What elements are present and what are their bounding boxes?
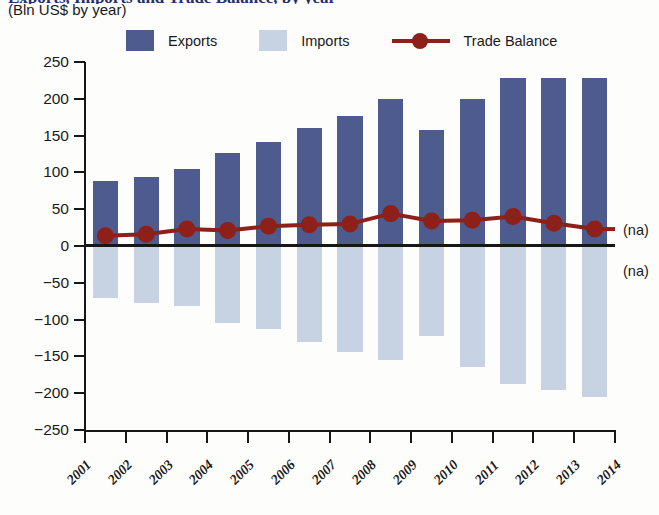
legend-line-marker-icon <box>392 30 450 51</box>
y-tick-250 <box>74 61 85 63</box>
x-tick-label-2007: 2007 <box>308 457 339 488</box>
trade-balance-marker-2005 <box>260 218 277 235</box>
trade-balance-marker-2002 <box>138 226 155 243</box>
x-tick-label-2008: 2008 <box>349 457 380 488</box>
legend-item-exports[interactable]: Exports <box>126 30 217 51</box>
x-tick-label-2011: 2011 <box>471 458 502 489</box>
y-tick-label-0: 0 <box>60 237 69 255</box>
y-tick-label-250: 250 <box>43 53 69 71</box>
trade-balance-marker-2011 <box>505 208 522 225</box>
y-tick--200 <box>74 392 85 394</box>
y-tick--50 <box>74 282 85 284</box>
x-tick-2008 <box>369 430 371 443</box>
trade-chart: Exports, Imports and Trade Balance, by y… <box>0 0 659 515</box>
x-tick-2009 <box>410 430 412 443</box>
na-label-above-axis: (na) <box>623 222 649 238</box>
trade-balance-marker-2013 <box>586 221 603 238</box>
na-label-below-axis: (na) <box>623 263 649 279</box>
x-axis <box>84 430 615 432</box>
chart-legend: Exports Imports Trade Balance <box>126 30 557 51</box>
trade-balance-marker-2001 <box>97 227 114 244</box>
x-tick-label-2004: 2004 <box>186 457 217 488</box>
x-tick-2002 <box>125 430 127 443</box>
y-tick-label--200: −200 <box>34 384 69 402</box>
trade-balance-marker-2003 <box>178 221 195 238</box>
x-tick-label-2012: 2012 <box>512 457 543 488</box>
trade-balance-marker-2008 <box>382 205 399 222</box>
x-tick-2004 <box>206 430 208 443</box>
y-tick--150 <box>74 355 85 357</box>
x-tick-2013 <box>573 430 575 443</box>
y-tick--100 <box>74 319 85 321</box>
legend-swatch-imports <box>259 30 287 51</box>
legend-label-trade-balance: Trade Balance <box>464 33 558 49</box>
y-tick-label-50: 50 <box>52 200 69 218</box>
x-tick-label-2006: 2006 <box>268 457 299 488</box>
legend-swatch-exports <box>126 30 154 51</box>
trade-balance-marker-2004 <box>219 222 236 239</box>
x-tick-2011 <box>492 430 494 443</box>
x-tick-label-2001: 2001 <box>64 457 95 488</box>
y-tick-label--100: −100 <box>34 311 69 329</box>
x-tick-label-2013: 2013 <box>553 457 584 488</box>
trade-balance-marker-2010 <box>464 212 481 229</box>
y-tick-label-200: 200 <box>43 90 69 108</box>
y-tick-0 <box>74 245 85 247</box>
y-tick-label--50: −50 <box>43 274 69 292</box>
x-tick-2005 <box>247 430 249 443</box>
y-tick-label--250: −250 <box>34 421 69 439</box>
y-tick-50 <box>74 208 85 210</box>
legend-label-imports: Imports <box>301 33 349 49</box>
chart-subtitle: (Bln US$ by year) <box>8 1 126 18</box>
x-tick-2012 <box>532 430 534 443</box>
plot-area: 250200150100500−50−100−150−200−250 20012… <box>85 62 615 430</box>
trade-balance-marker-2009 <box>423 212 440 229</box>
x-tick-2014 <box>614 430 616 443</box>
y-tick-100 <box>74 171 85 173</box>
zero-baseline <box>84 244 615 247</box>
x-tick-label-2010: 2010 <box>431 457 462 488</box>
y-tick-150 <box>74 135 85 137</box>
x-tick-2007 <box>329 430 331 443</box>
trade-balance-marker-2007 <box>342 215 359 232</box>
x-tick-2006 <box>288 430 290 443</box>
y-tick-label-100: 100 <box>43 163 69 181</box>
trade-balance-marker-2012 <box>545 215 562 232</box>
y-tick-200 <box>74 98 85 100</box>
x-tick-2001 <box>84 430 86 443</box>
legend-item-imports[interactable]: Imports <box>259 30 349 51</box>
x-tick-2003 <box>166 430 168 443</box>
x-tick-label-2005: 2005 <box>227 457 258 488</box>
x-tick-label-2009: 2009 <box>390 457 421 488</box>
x-tick-label-2002: 2002 <box>105 457 136 488</box>
legend-item-trade-balance[interactable]: Trade Balance <box>392 30 558 51</box>
x-tick-label-2014: 2014 <box>594 457 625 488</box>
trade-balance-marker-2006 <box>301 216 318 233</box>
legend-label-exports: Exports <box>168 33 217 49</box>
y-tick-label-150: 150 <box>43 127 69 145</box>
x-tick-label-2003: 2003 <box>145 457 176 488</box>
y-tick-label--150: −150 <box>34 347 69 365</box>
x-tick-2010 <box>451 430 453 443</box>
